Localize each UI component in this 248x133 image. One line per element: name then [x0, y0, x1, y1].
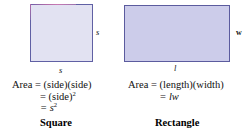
rectangle-formula-line-2-variable: lw — [166, 91, 179, 102]
rectangle-formula-line-1: Area = (length)(width) — [128, 79, 224, 91]
square-formula-line-2-exponent: 2 — [72, 89, 75, 96]
rectangle-caption: Rectangle — [155, 117, 199, 129]
square-area-formula: Area = (side)(side) = (side)2 = s2 — [12, 79, 91, 114]
rectangle-side-label-bottom: l — [174, 64, 176, 73]
rectangle-formula-line-2: =lw — [128, 91, 224, 103]
square-shape — [30, 4, 93, 62]
square-formula-line-3: = s2 — [12, 102, 91, 114]
rectangle-shape — [124, 5, 230, 62]
rectangle-side-label-right: w — [236, 29, 242, 37]
square-formula-line-3-exponent: 2 — [54, 101, 57, 108]
square-formula-line-2: = (side)2 — [12, 91, 91, 103]
square-formula-line-1: Area = (side)(side) — [12, 79, 91, 91]
square-side-label-right: s — [96, 28, 99, 37]
rectangle-panel: w l Area = (length)(width) =lw Rectangle — [124, 0, 248, 133]
square-side-label-bottom: s — [59, 66, 62, 75]
area-formulas-figure: s s Area = (side)(side) = (side)2 = s2 S… — [0, 0, 248, 133]
square-panel: s s Area = (side)(side) = (side)2 = s2 S… — [0, 0, 124, 133]
rectangle-area-formula: Area = (length)(width) =lw — [128, 79, 224, 102]
square-formula-line-3-text: = s — [40, 102, 54, 113]
square-caption: Square — [40, 117, 72, 129]
